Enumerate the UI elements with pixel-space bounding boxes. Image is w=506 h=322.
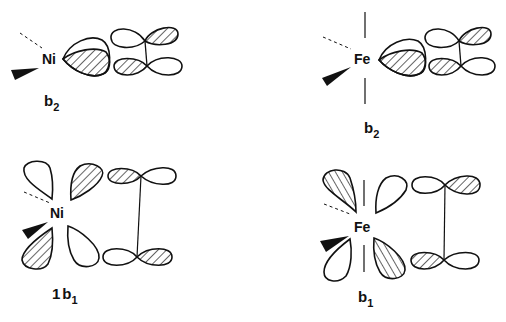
d-lobe-lower-right <box>68 226 99 267</box>
p-orbital-lobe <box>111 29 145 47</box>
atom-label-fe: Fe <box>354 51 371 67</box>
p-orbital-lobe <box>444 253 479 270</box>
cc-bond <box>444 185 445 260</box>
p-orbital-lobe-hatched <box>114 59 147 76</box>
p-orbital-lobe <box>141 168 176 185</box>
cc-bond <box>459 41 461 66</box>
dashed-bond <box>24 192 50 203</box>
metal-d-lobe-hatched <box>63 49 110 76</box>
d-lobe-upper-left <box>24 161 53 199</box>
wedge-bond <box>11 68 39 80</box>
p-orbital-lobe-hatched <box>137 249 172 266</box>
p-orbital-lobe <box>147 58 182 75</box>
panel-ni-b2: Ni b2 <box>11 28 182 113</box>
panel-fe-b2: Fe b2 <box>322 12 495 140</box>
atom-label-ni: Ni <box>42 51 56 67</box>
p-orbital-lobe <box>103 249 137 266</box>
atom-label-fe: Fe <box>354 219 371 235</box>
p-orbital-lobe-hatched <box>411 253 444 270</box>
p-orbital-lobe-hatched <box>429 59 461 76</box>
panel-ni-1b1: Ni 1b1 <box>22 161 176 306</box>
symmetry-label-1b1: 1b1 <box>52 285 78 306</box>
p-orbital-lobe <box>461 58 495 75</box>
orbital-diagram: Ni b2 Fe b2 Ni <box>0 0 506 322</box>
p-orbital-lobe-hatched <box>108 169 141 184</box>
cc-bond <box>137 176 141 257</box>
symmetry-label-b2: b2 <box>44 92 59 113</box>
p-orbital-lobe-hatched <box>459 28 491 45</box>
p-orbital-lobe <box>425 29 459 47</box>
dashed-bond <box>324 204 350 214</box>
panel-fe-b1: Fe b1 <box>320 170 480 309</box>
dashed-bond <box>20 33 42 48</box>
d-lobe-upper-right-hatched <box>71 164 103 200</box>
p-orbital-lobe <box>412 177 445 194</box>
p-orbital-lobe-hatched <box>445 176 480 194</box>
dashed-bond <box>323 37 351 49</box>
d-lobe-upper-right <box>376 176 407 213</box>
symmetry-label-b1: b1 <box>358 288 373 309</box>
atom-label-ni: Ni <box>50 205 64 221</box>
d-lobe-lower-right-hatched <box>374 238 405 279</box>
d-lobe-upper-left-hatched <box>323 170 356 212</box>
p-orbital-lobe-hatched <box>145 28 178 45</box>
wedge-bond <box>322 67 351 86</box>
cc-bond <box>145 41 147 66</box>
symmetry-label-b2: b2 <box>364 119 379 140</box>
metal-d-lobe-hatched <box>379 50 426 76</box>
